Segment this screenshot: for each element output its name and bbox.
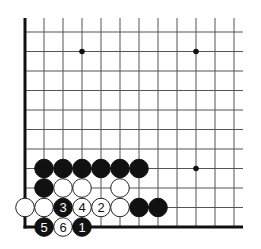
black-stone: [73, 159, 92, 178]
move-number-label: 4: [78, 200, 85, 215]
move-number-label: 6: [59, 220, 66, 235]
white-stone-move-4: 4: [73, 198, 92, 217]
star-point-icon: [193, 166, 199, 172]
white-stone-icon: [111, 198, 130, 217]
black-stone: [35, 179, 54, 198]
white-stone-move-6: 6: [54, 218, 73, 237]
white-stone-icon: [54, 179, 73, 198]
white-stone-icon: [73, 179, 92, 198]
move-number-label: 3: [59, 200, 66, 215]
black-stone-icon: [54, 159, 73, 178]
black-stone-move-5: 5: [35, 218, 54, 237]
black-stone: [111, 159, 130, 178]
move-number-label: 5: [40, 220, 47, 235]
board-edges: [24, 18, 244, 229]
black-stone-icon: [35, 159, 54, 178]
white-stone: [73, 179, 92, 198]
black-stone-icon: [111, 159, 130, 178]
black-stone: [54, 159, 73, 178]
black-stone-icon: [130, 159, 149, 178]
go-board-canvas: 342561: [0, 0, 261, 249]
black-stone-move-3: 3: [54, 198, 73, 217]
white-stone-icon: [16, 198, 35, 217]
star-point-icon: [79, 49, 85, 55]
black-stone-icon: [149, 198, 168, 217]
white-stone: [35, 198, 54, 217]
white-stone-icon: [35, 198, 54, 217]
black-stone: [92, 159, 111, 178]
black-stone: [130, 198, 149, 217]
black-stone: [130, 159, 149, 178]
white-stone-move-2: 2: [92, 198, 111, 217]
black-stone-icon: [130, 198, 149, 217]
move-number-label: 1: [78, 220, 85, 235]
black-stone-icon: [92, 159, 111, 178]
black-stone: [35, 159, 54, 178]
stones-layer: 342561: [16, 159, 168, 236]
black-stone-icon: [35, 179, 54, 198]
black-stone-icon: [73, 159, 92, 178]
black-stone-move-1: 1: [73, 218, 92, 237]
black-stone: [149, 198, 168, 217]
white-stone-icon: [111, 179, 130, 198]
star-point-icon: [193, 49, 199, 55]
white-stone: [111, 179, 130, 198]
go-board-diagram: 342561: [0, 0, 261, 249]
white-stone: [16, 198, 35, 217]
white-stone: [111, 198, 130, 217]
move-number-label: 2: [97, 200, 104, 215]
white-stone: [54, 179, 73, 198]
